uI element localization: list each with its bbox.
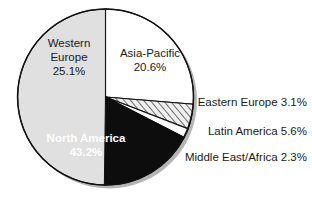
pie-label-western-europe: Western Europe 25.1% xyxy=(31,36,107,78)
pie-label-north-america-line1: North America xyxy=(30,131,142,145)
pie-label-north-america: North America 43.2% xyxy=(30,131,142,159)
pie-value-asia-pacific: 20.6% xyxy=(110,60,190,74)
pie-chart: Western Europe 25.1% Asia-Pacific 20.6% … xyxy=(0,0,312,198)
pie-label-asia-pacific-line1: Asia-Pacific xyxy=(110,46,190,60)
pie-label-western-europe-line1: Western xyxy=(31,36,107,50)
pie-callout-latin-america: Latin America 5.6% xyxy=(208,126,307,138)
pie-label-asia-pacific: Asia-Pacific 20.6% xyxy=(110,46,190,74)
pie-label-western-europe-line2: Europe xyxy=(31,50,107,64)
pie-value-western-europe: 25.1% xyxy=(31,64,107,78)
pie-callout-middle-east-africa: Middle East/Africa 2.3% xyxy=(185,152,307,164)
pie-value-north-america: 43.2% xyxy=(30,145,142,159)
pie-callout-eastern-europe: Eastern Europe 3.1% xyxy=(198,97,307,109)
